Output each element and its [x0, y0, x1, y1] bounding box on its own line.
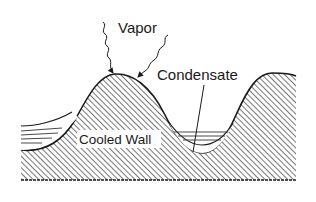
vapor-arrow-1	[103, 22, 113, 73]
vapor-label: Vapor	[118, 19, 157, 36]
condensate-leader-line	[193, 85, 204, 152]
condensate-label: Condensate	[157, 66, 238, 83]
cooled-wall-label: Cooled Wall	[79, 132, 151, 147]
condensation-diagram: Vapor Condensate Cooled Wall	[0, 0, 316, 202]
